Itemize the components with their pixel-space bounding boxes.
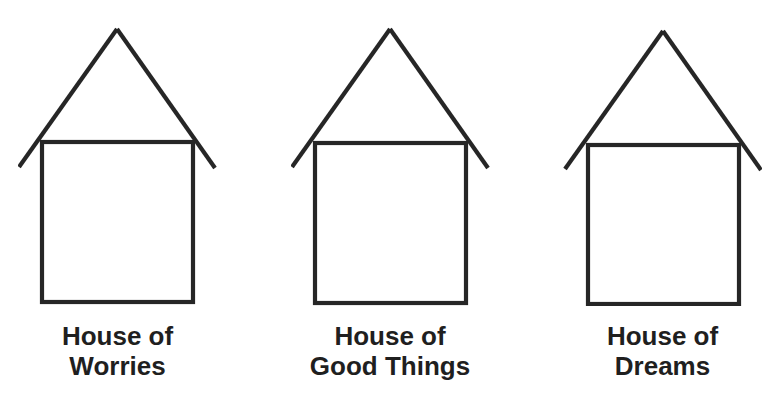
house-figure-good-things: House of Good Things — [291, 26, 490, 381]
house-body-rect — [315, 143, 466, 303]
roof-left-line — [565, 31, 663, 169]
house-label-line1: House of — [310, 321, 470, 351]
roof-right-line — [117, 29, 215, 168]
three-houses-diagram: House of Worries House of Good Things Ho… — [0, 0, 783, 407]
house-figure-worries: House of Worries — [18, 26, 217, 381]
house-label-dreams: House of Dreams — [607, 321, 718, 381]
house-body-rect — [588, 145, 739, 304]
house-label-worries: House of Worries — [62, 321, 173, 381]
house-label-line2: Dreams — [607, 351, 718, 381]
house-label-line1: House of — [62, 321, 173, 351]
roof-left-line — [19, 29, 117, 167]
roof-left-line — [292, 29, 390, 167]
roof-right-line — [390, 29, 488, 168]
house-body-rect — [42, 142, 193, 302]
house-drawing — [563, 26, 762, 306]
house-label-line1: House of — [607, 321, 718, 351]
house-label-line2: Worries — [62, 351, 173, 381]
roof-right-line — [663, 31, 761, 170]
house-label-good-things: House of Good Things — [310, 321, 470, 381]
house-figure-dreams: House of Dreams — [563, 26, 762, 381]
house-label-line2: Good Things — [310, 351, 470, 381]
house-drawing — [18, 26, 217, 306]
house-drawing — [291, 26, 490, 306]
